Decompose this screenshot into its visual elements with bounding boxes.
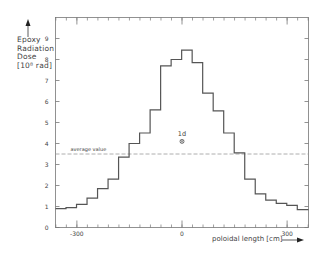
x-arrow-right-icon bbox=[297, 238, 304, 243]
y-tick-label: 2 bbox=[45, 182, 49, 189]
plot-frame bbox=[56, 18, 309, 228]
y-tick-label: 0 bbox=[45, 224, 49, 231]
point-label: 1d bbox=[178, 130, 186, 138]
x-tick-label: -300 bbox=[70, 230, 84, 237]
x-tick-label: 300 bbox=[281, 230, 293, 237]
y-tick-label: 5 bbox=[45, 119, 49, 126]
y-axis-label-line-4: [10⁸ rad] bbox=[17, 62, 54, 71]
y-axis-label: Epoxy Radiation Dose [10⁸ rad] bbox=[17, 36, 54, 70]
y-tick-label: 3 bbox=[45, 161, 49, 168]
y-tick-label: 7 bbox=[45, 77, 49, 84]
x-tick-label: 0 bbox=[180, 230, 184, 237]
y-tick-label: 6 bbox=[45, 98, 49, 105]
y-arrow-up-icon bbox=[26, 19, 31, 26]
point-marker-cross-icon bbox=[181, 140, 184, 143]
y-tick-label: 4 bbox=[45, 140, 49, 147]
x-axis-label: poloidal length [cm] bbox=[212, 235, 282, 243]
average-label: average value bbox=[71, 146, 107, 153]
y-tick-label: 1 bbox=[45, 203, 49, 210]
